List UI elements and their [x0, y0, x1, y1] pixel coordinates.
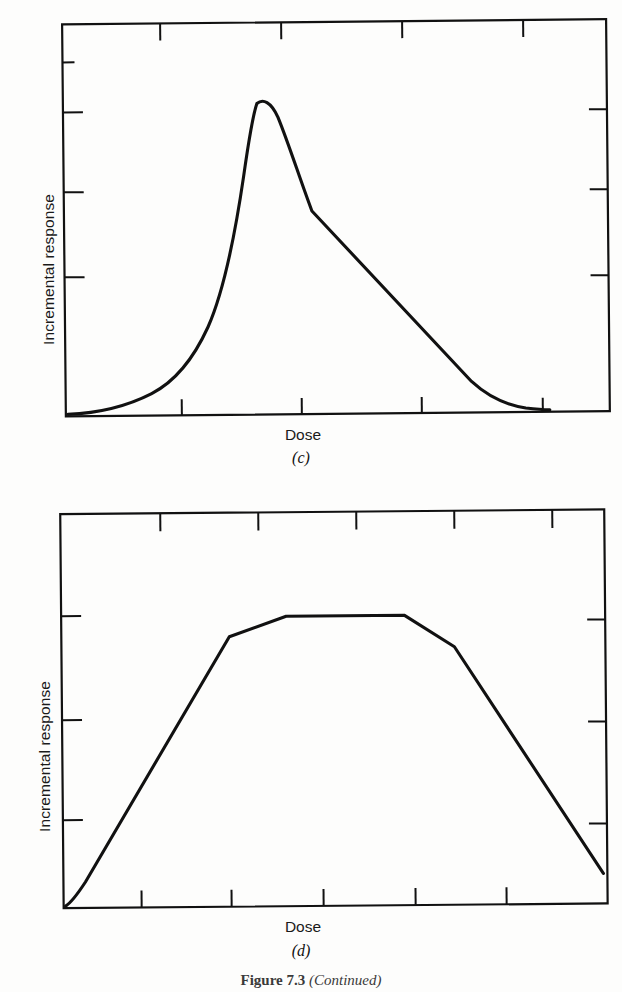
x-axis-label-d: Dose — [0, 918, 614, 936]
plot-frame-c — [62, 19, 610, 416]
figure-caption-prefix: Figure 7.3 — [241, 972, 306, 988]
panel-letter-d: (d) — [0, 942, 612, 960]
left-axis-ticks-c — [62, 62, 84, 277]
dose-response-curve-d — [63, 613, 603, 906]
right-axis-ticks-d — [587, 619, 607, 823]
figure-caption-text: (Continued) — [309, 972, 382, 988]
plot-frame-d — [60, 509, 607, 908]
plot-panel-d: Incremental response Dose (d) — [0, 496, 622, 992]
x-axis-label-c: Dose — [0, 426, 614, 444]
plot-panel-c: Incremental response Dose (c) — [0, 0, 622, 496]
plot-c-canvas — [0, 0, 622, 496]
y-axis-label-c: Incremental response — [40, 194, 58, 345]
dose-response-curve-c — [65, 99, 550, 415]
left-axis-ticks-d — [61, 616, 83, 820]
panel-letter-c: (c) — [0, 449, 612, 467]
figure-caption: Figure 7.3 (Continued) — [0, 972, 622, 992]
y-axis-label-d: Incremental response — [36, 681, 54, 832]
right-axis-ticks-c — [589, 109, 609, 275]
figure-page: Incremental response Dose (c) — [0, 0, 622, 992]
